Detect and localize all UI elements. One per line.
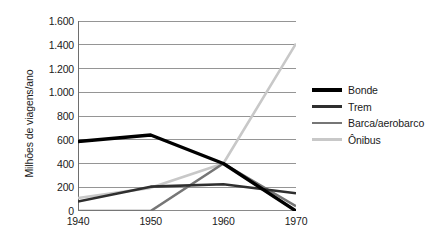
legend-line-swatch	[312, 100, 342, 114]
legend-swatch-bar	[312, 138, 342, 141]
y-tick-label: 1.000	[49, 86, 74, 98]
legend-swatch-bar	[312, 105, 342, 108]
legend-item[interactable]: Bonde	[312, 83, 437, 97]
y-tick-label: 400	[57, 158, 74, 170]
series-line	[78, 44, 296, 198]
legend-line-swatch	[312, 133, 342, 147]
legend-swatch-bar	[312, 122, 342, 125]
legend-item-label: Barca/aerobarco	[348, 117, 424, 129]
plot-svg	[78, 21, 296, 211]
line-chart: Milhões de viagens/ano 02004006008001.00…	[0, 0, 437, 247]
legend-item[interactable]: Ônibus	[312, 133, 437, 147]
y-tick-label: 1.200	[49, 63, 74, 75]
x-tick-label: 1950	[139, 215, 162, 227]
series-line	[78, 135, 296, 211]
legend-item-label: Ônibus	[348, 134, 381, 146]
legend-swatch-bar	[312, 88, 342, 91]
legend-line-swatch	[312, 83, 342, 97]
y-tick-label: 800	[57, 110, 74, 122]
legend-item-label: Bonde	[348, 84, 378, 96]
y-tick-label: 200	[57, 181, 74, 193]
chart-legend: BondeTremBarca/aerobarcoÔnibus	[312, 83, 437, 149]
legend-item-label: Trem	[348, 101, 372, 113]
y-tick-label: 1.400	[49, 39, 74, 51]
x-axis-tick-labels: 1940195019601970	[78, 215, 296, 235]
plot-area	[78, 21, 296, 211]
legend-item[interactable]: Barca/aerobarco	[312, 116, 437, 130]
legend-line-swatch	[312, 116, 342, 130]
x-tick-label: 1960	[212, 215, 235, 227]
x-tick-label: 1970	[285, 215, 308, 227]
y-tick-label: 600	[57, 134, 74, 146]
y-axis-tick-labels: 02004006008001.0001.2001.4001.600	[30, 21, 74, 211]
legend-item[interactable]: Trem	[312, 100, 437, 114]
y-tick-label: 1.600	[49, 15, 74, 27]
x-tick-label: 1940	[67, 215, 90, 227]
